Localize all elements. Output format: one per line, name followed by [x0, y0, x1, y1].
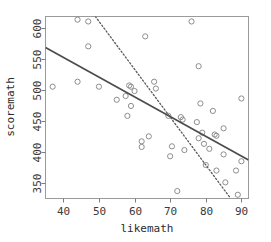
x-tick-label: 80 — [200, 205, 213, 218]
x-axis-title: likemath — [121, 222, 174, 235]
x-tick-label: 40 — [57, 205, 70, 218]
x-tick-label: 60 — [129, 205, 142, 218]
y-tick-label: 400 — [31, 143, 44, 163]
y-tick-label: 550 — [31, 50, 44, 70]
y-axis-title: scoremath — [4, 77, 17, 137]
y-tick-label: 600 — [31, 19, 44, 39]
x-tick-label: 90 — [235, 205, 248, 218]
y-tick-label: 500 — [31, 81, 44, 101]
y-tick-label: 350 — [31, 174, 44, 194]
plot-canvas: 405060708090 350400450500550600 likemath… — [0, 0, 271, 242]
x-tick-label: 50 — [93, 205, 106, 218]
x-tick-label: 70 — [164, 205, 177, 218]
y-tick-label: 450 — [31, 112, 44, 132]
scatter-plot-figure: 405060708090 350400450500550600 likemath… — [0, 0, 271, 242]
